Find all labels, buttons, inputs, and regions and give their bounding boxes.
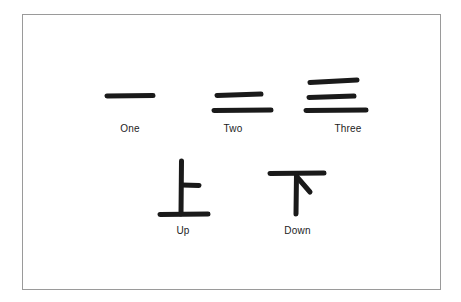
- chinese-character-three-icon: [293, 31, 403, 119]
- chinese-character-down-icon: [245, 147, 350, 219]
- chinese-character-one-icon: [80, 59, 180, 119]
- character-card-up: Up: [133, 147, 233, 237]
- character-card-two: Two: [183, 45, 283, 135]
- character-label-up: Up: [133, 225, 233, 237]
- figure-frame: One Two Three Up Down: [22, 14, 441, 290]
- character-card-three: Three: [293, 31, 403, 135]
- character-label-three: Three: [293, 123, 403, 135]
- character-label-one: One: [80, 123, 180, 135]
- character-card-down: Down: [245, 147, 350, 237]
- chinese-character-up-icon: [133, 147, 233, 219]
- character-card-one: One: [80, 59, 180, 135]
- chinese-character-two-icon: [183, 45, 283, 119]
- character-label-down: Down: [245, 225, 350, 237]
- character-label-two: Two: [183, 123, 283, 135]
